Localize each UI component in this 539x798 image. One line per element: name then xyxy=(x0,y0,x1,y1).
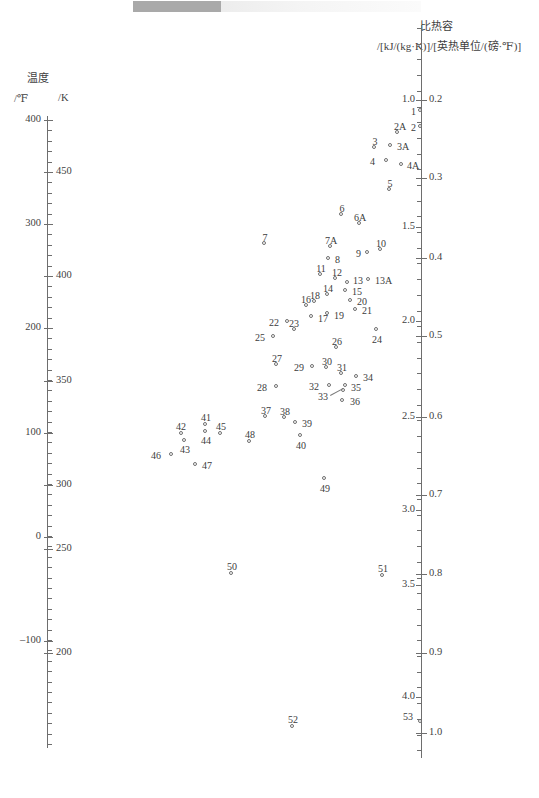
left-axis-minor-tick xyxy=(48,203,52,204)
left-axis-minor-tick xyxy=(48,650,52,651)
right-axis-label-si: 2.0 xyxy=(383,314,415,325)
data-point-marker[interactable] xyxy=(399,162,403,166)
data-point-marker[interactable] xyxy=(418,719,422,723)
right-axis-minor-tick xyxy=(417,672,422,673)
data-point-label: 35 xyxy=(351,382,375,393)
data-point-marker[interactable] xyxy=(309,314,313,318)
data-point-marker[interactable] xyxy=(354,374,358,378)
left-axis-minor-tick xyxy=(48,370,52,371)
right-axis-label-imperial: 0.6 xyxy=(429,410,461,421)
data-point-label: 18 xyxy=(304,290,326,301)
right-axis-label-imperial: 0.5 xyxy=(429,329,461,340)
data-point-marker[interactable] xyxy=(366,277,370,281)
data-point-label: 5 xyxy=(379,178,401,189)
data-point-marker[interactable] xyxy=(388,143,392,147)
left-axis-minor-tick xyxy=(48,661,52,662)
data-point-label: 21 xyxy=(362,305,386,316)
data-point-marker[interactable] xyxy=(271,334,275,338)
data-point-marker[interactable] xyxy=(274,384,278,388)
left-axis-major-tick-k xyxy=(44,172,53,173)
left-axis-minor-tick xyxy=(48,505,52,506)
right-axis-minor-tick xyxy=(417,452,422,453)
right-axis-major-tick-si xyxy=(416,510,422,511)
scan-artifact-bar xyxy=(133,1,221,12)
data-point-marker[interactable] xyxy=(310,364,314,368)
left-axis-minor-tick xyxy=(48,297,52,298)
left-axis-minor-tick xyxy=(48,359,52,360)
right-axis-label-si: 1.0 xyxy=(383,93,415,104)
right-axis-minor-tick xyxy=(417,609,422,610)
data-point-marker[interactable] xyxy=(182,438,186,442)
data-point-marker[interactable] xyxy=(293,420,297,424)
right-axis-major-tick-si xyxy=(416,697,422,698)
data-point-label: 49 xyxy=(314,483,336,494)
data-point-label: 39 xyxy=(302,418,326,429)
left-axis-minor-tick xyxy=(48,307,52,308)
left-axis-minor-tick xyxy=(48,349,52,350)
right-axis-minor-tick xyxy=(417,750,422,751)
data-point-marker[interactable] xyxy=(203,429,207,433)
left-axis-major-tick-f xyxy=(44,433,53,434)
right-axis-units: /[kJ/(kg·K)]/[英热单位/(磅·℉)] xyxy=(377,37,521,53)
data-point-marker[interactable] xyxy=(353,307,357,311)
right-axis-label-si: 3.5 xyxy=(383,578,415,589)
data-point-label: 3A xyxy=(397,141,421,152)
right-axis-line xyxy=(421,25,422,758)
left-axis-minor-tick xyxy=(48,702,52,703)
data-point-label: 4 xyxy=(355,156,375,167)
left-axis-minor-tick xyxy=(48,557,52,558)
data-point-label: 13 xyxy=(353,275,377,286)
right-axis-label-si: 4.0 xyxy=(383,690,415,701)
right-axis-minor-tick xyxy=(417,201,422,202)
right-axis-major-tick-si xyxy=(416,585,422,586)
right-axis-minor-tick xyxy=(417,687,422,688)
right-axis-major-tick-imperial xyxy=(416,100,427,101)
left-axis-unit-k: /K xyxy=(58,92,69,103)
data-point-marker[interactable] xyxy=(322,476,326,480)
data-point-label: 53 xyxy=(393,711,413,722)
data-point-label: 38 xyxy=(274,406,296,417)
data-point-marker[interactable] xyxy=(298,433,302,437)
data-point-marker[interactable] xyxy=(169,452,173,456)
right-axis-major-tick-imperial xyxy=(416,178,427,179)
data-point-marker[interactable] xyxy=(418,108,422,112)
data-point-marker[interactable] xyxy=(365,250,369,254)
left-axis-label-f: 100 xyxy=(7,426,41,437)
data-point-label: 10 xyxy=(370,238,392,249)
right-axis-minor-tick xyxy=(417,342,422,343)
left-axis-label-f: –100 xyxy=(7,634,41,645)
left-axis-minor-tick xyxy=(48,671,52,672)
right-axis-label-imperial: 1.0 xyxy=(429,726,461,737)
data-point-label: 52 xyxy=(282,714,304,725)
left-axis-minor-tick xyxy=(48,515,52,516)
right-axis-minor-tick xyxy=(417,75,422,76)
data-point-marker[interactable] xyxy=(325,311,329,315)
data-point-label: 33 xyxy=(308,391,328,402)
right-axis-major-tick-imperial xyxy=(416,574,427,575)
data-point-marker[interactable] xyxy=(326,256,330,260)
data-point-label: 45 xyxy=(210,421,232,432)
left-axis-label-k: 250 xyxy=(56,542,90,553)
data-point-label: 46 xyxy=(141,450,161,461)
data-point-marker[interactable] xyxy=(343,383,347,387)
data-point-marker[interactable] xyxy=(327,383,331,387)
right-axis-label-imperial: 0.3 xyxy=(429,171,461,182)
data-point-marker[interactable] xyxy=(348,298,352,302)
data-point-marker[interactable] xyxy=(340,398,344,402)
data-point-marker[interactable] xyxy=(374,327,378,331)
left-axis-label-k: 450 xyxy=(56,165,90,176)
right-axis-minor-tick xyxy=(417,546,422,547)
data-point-marker[interactable] xyxy=(345,280,349,284)
data-point-marker[interactable] xyxy=(418,124,422,128)
data-point-label: 6A xyxy=(349,212,371,223)
data-point-label: 31 xyxy=(331,362,353,373)
right-axis-minor-tick xyxy=(417,515,422,516)
data-point-label: 4A xyxy=(407,160,431,171)
right-axis-label-imperial: 0.8 xyxy=(429,567,461,578)
data-point-marker[interactable] xyxy=(343,288,347,292)
right-axis-minor-tick xyxy=(417,578,422,579)
left-axis-unit-f: /℉ xyxy=(14,92,28,104)
data-point-marker[interactable] xyxy=(384,158,388,162)
scan-artifact-gradient xyxy=(221,1,421,12)
data-point-marker[interactable] xyxy=(193,462,197,466)
